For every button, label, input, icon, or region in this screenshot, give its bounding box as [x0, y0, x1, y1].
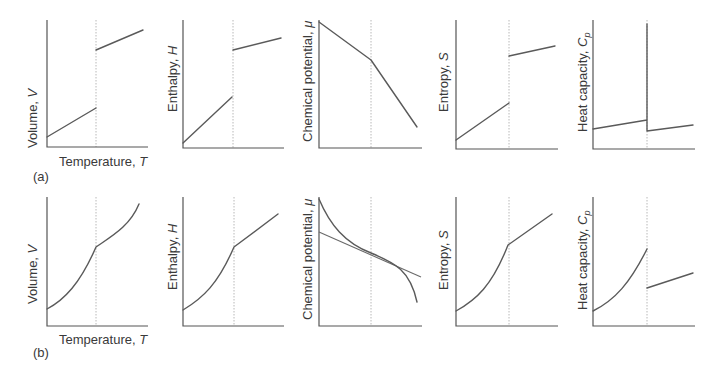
panel-a-volume: Volume, V Temperature, T [25, 20, 148, 169]
y-axis-label: Heat capacity, Cp [575, 211, 592, 310]
panel-b-entropy: Entropy, S [436, 197, 558, 326]
y-axis-label: Enthalpy, H [165, 223, 180, 290]
y-axis-label: Volume, V [25, 243, 40, 304]
curve-low-phase [593, 249, 647, 311]
curve-entropy [456, 214, 552, 311]
curve-low-phase [47, 108, 96, 137]
axes [593, 20, 695, 149]
curve-high-phase [233, 38, 281, 50]
panel-a-entropy: Entropy, S [436, 20, 558, 149]
panel-b-chemical-potential: Chemical potential, μ [300, 197, 422, 326]
curve-enthalpy [183, 214, 278, 310]
row-a: Volume, V Temperature, T Enthalpy, H Che… [25, 20, 695, 184]
curve-high-phase [96, 30, 143, 50]
axes [456, 197, 558, 326]
y-axis-label: Chemical potential, μ [300, 199, 315, 320]
axes [593, 197, 695, 326]
y-axis-label: Entropy, S [436, 52, 451, 112]
curve-volume [47, 204, 139, 309]
panel-b-enthalpy: Enthalpy, H [165, 197, 284, 326]
curve-mu [319, 199, 417, 302]
y-axis-label: Heat capacity, Cp [575, 33, 592, 132]
curve-cp-divergence [593, 24, 693, 131]
y-axis-label: Entropy, S [436, 230, 451, 290]
panel-a-enthalpy: Enthalpy, H [165, 20, 284, 148]
panel-a-chemical-potential: Chemical potential, μ [300, 20, 422, 148]
x-axis-label: Temperature, T [59, 332, 148, 347]
y-axis-label: Chemical potential, μ [300, 21, 315, 142]
tangent-line [319, 232, 421, 277]
y-axis-label: Volume, V [25, 87, 40, 148]
row-b: Volume, V Temperature, T Enthalpy, H Che… [25, 197, 695, 360]
panel-a-heat-capacity: Heat capacity, Cp [575, 20, 695, 149]
panel-b-heat-capacity: Heat capacity, Cp [575, 197, 695, 326]
row-b-label: (b) [33, 345, 49, 360]
curve-high-phase [509, 46, 555, 56]
y-axis-label: Enthalpy, H [165, 45, 180, 112]
curve-high-phase [647, 273, 693, 288]
phase-transition-figure: Volume, V Temperature, T Enthalpy, H Che… [0, 0, 721, 370]
curve-mu [319, 22, 417, 127]
panel-b-volume: Volume, V Temperature, T [25, 197, 148, 347]
x-axis-label: Temperature, T [59, 154, 148, 169]
row-a-label: (a) [33, 169, 49, 184]
curve-low-phase [183, 97, 232, 143]
curve-low-phase [456, 103, 509, 140]
